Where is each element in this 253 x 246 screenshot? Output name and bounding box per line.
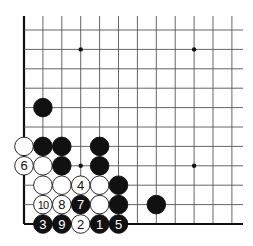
stone-disc — [53, 137, 72, 156]
black-stone — [109, 195, 128, 214]
stone-disc — [109, 195, 128, 214]
stone-disc — [90, 137, 109, 156]
black-stone-move-9: 9 — [53, 215, 72, 234]
white-stone — [15, 137, 34, 156]
black-stone — [90, 137, 109, 156]
stone-disc — [34, 98, 53, 117]
stone-disc — [90, 157, 109, 176]
move-number: 3 — [39, 217, 46, 232]
black-stone — [109, 176, 128, 195]
black-stone — [34, 137, 53, 156]
stone-disc — [90, 176, 109, 195]
black-stone-move-3: 3 — [34, 215, 53, 234]
white-stone-move-6: 6 — [15, 157, 34, 176]
stone-disc — [109, 176, 128, 195]
stone-disc — [90, 195, 109, 214]
black-stone-move-7: 7 — [71, 195, 90, 214]
white-stone — [34, 157, 53, 176]
stone-disc — [34, 176, 53, 195]
white-stone — [34, 176, 53, 195]
black-stone-move-5: 5 — [109, 215, 128, 234]
white-stone-move-10: 10 — [34, 195, 53, 214]
move-number: 9 — [58, 217, 65, 232]
go-board: 64108739215 — [0, 0, 253, 246]
move-number: 1 — [96, 217, 103, 232]
move-number: 8 — [58, 197, 65, 212]
white-stone-move-2: 2 — [71, 215, 90, 234]
stone-disc — [147, 195, 166, 214]
white-stone — [90, 176, 109, 195]
white-stone-move-4: 4 — [71, 176, 90, 195]
move-number: 10 — [38, 199, 49, 211]
move-number: 6 — [20, 158, 27, 173]
stone-disc — [15, 137, 34, 156]
move-number: 5 — [115, 217, 122, 232]
star-point — [192, 164, 196, 168]
stone-disc — [34, 137, 53, 156]
black-stone — [147, 195, 166, 214]
white-stone — [90, 195, 109, 214]
black-stone — [34, 98, 53, 117]
black-stone — [53, 137, 72, 156]
star-point — [79, 47, 83, 51]
move-number: 7 — [77, 197, 84, 212]
stone-disc — [53, 157, 72, 176]
black-stone-move-1: 1 — [90, 215, 109, 234]
star-point — [192, 47, 196, 51]
black-stone — [53, 157, 72, 176]
move-number: 4 — [77, 178, 84, 193]
white-stone — [53, 176, 72, 195]
star-point — [79, 164, 83, 168]
stone-disc — [53, 176, 72, 195]
black-stone — [90, 157, 109, 176]
move-number: 2 — [77, 217, 84, 232]
stone-disc — [34, 157, 53, 176]
white-stone-move-8: 8 — [53, 195, 72, 214]
